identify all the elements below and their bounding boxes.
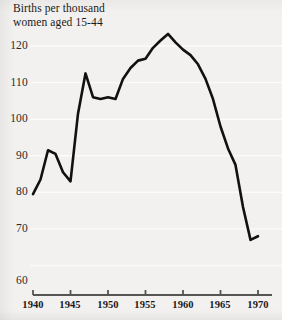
x-axis-tick-label: 1965 <box>200 299 240 310</box>
y-axis-tick-label: 80 <box>2 185 28 197</box>
chart-title: Births per thousand women aged 15-44 <box>13 2 105 29</box>
y-axis-tick-label: 110 <box>2 76 28 88</box>
y-axis-tick-label: 60 <box>2 274 28 286</box>
y-axis-tick-label: 120 <box>2 39 28 51</box>
chart-title-line-2: women aged 15-44 <box>13 16 105 30</box>
data-series-line <box>33 34 258 240</box>
x-axis-tick-label: 1970 <box>238 299 278 310</box>
x-axis-tick-label: 1945 <box>50 299 90 310</box>
x-axis-tick-label: 1950 <box>88 299 128 310</box>
x-axis-tick-label: 1955 <box>125 299 165 310</box>
x-axis-tick-label: 1940 <box>13 299 53 310</box>
birth-rate-chart-figure: Births per thousand women aged 15-44 120… <box>0 0 282 320</box>
y-axis-tick-label: 100 <box>2 112 28 124</box>
axis-group <box>33 290 272 295</box>
x-axis-tick-label: 1960 <box>163 299 203 310</box>
chart-plot-area <box>0 0 282 320</box>
y-axis-tick-label: 70 <box>2 222 28 234</box>
chart-title-line-1: Births per thousand <box>13 2 105 16</box>
y-axis-tick-label: 90 <box>2 149 28 161</box>
gridlines-group <box>30 46 282 266</box>
